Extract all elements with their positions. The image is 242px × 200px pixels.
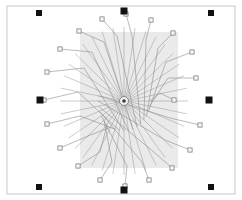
pad-10[interactable]	[45, 70, 49, 74]
pad-19[interactable]	[188, 148, 192, 152]
pad-18[interactable]	[170, 166, 174, 170]
pad-02[interactable]	[194, 76, 198, 80]
fiducial-bottom-left	[36, 184, 42, 190]
center-hub[interactable]	[120, 97, 129, 106]
pad-03[interactable]	[190, 50, 194, 54]
pad-07[interactable]	[100, 17, 104, 21]
diagram-svg	[0, 0, 242, 200]
fiducial-top-right	[208, 10, 214, 16]
pad-13[interactable]	[58, 146, 62, 150]
pad-05[interactable]	[149, 18, 153, 22]
fiducial-right-center	[206, 97, 213, 104]
fiducial-top-center	[121, 8, 128, 15]
fiducial-bottom-center	[121, 187, 128, 194]
pad-12[interactable]	[45, 122, 49, 126]
pad-17[interactable]	[147, 178, 151, 182]
pad-04[interactable]	[171, 31, 175, 35]
pad-14[interactable]	[76, 164, 80, 168]
pad-08[interactable]	[77, 29, 81, 33]
pad-20[interactable]	[198, 123, 202, 127]
fiducial-left-center	[37, 97, 44, 104]
pad-15[interactable]	[98, 178, 102, 182]
fiducial-top-left	[36, 10, 42, 16]
diagram-canvas	[0, 0, 242, 200]
pad-09[interactable]	[58, 47, 62, 51]
center-hub-core[interactable]	[122, 99, 126, 103]
fiducial-bottom-right	[208, 184, 214, 190]
pad-01[interactable]	[172, 98, 176, 102]
